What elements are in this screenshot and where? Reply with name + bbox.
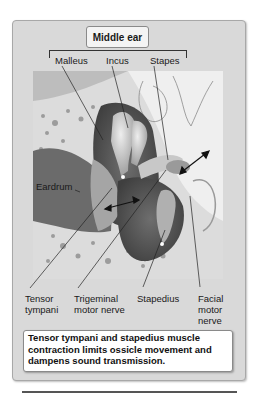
label-facial-3: nerve bbox=[198, 315, 222, 326]
middle-ear-illustration bbox=[33, 71, 223, 279]
label-trigeminal-1: Trigeminal bbox=[74, 293, 118, 304]
figure-caption: Tensor tympani and stapedius muscle cont… bbox=[23, 330, 233, 372]
label-incus: Incus bbox=[106, 55, 129, 66]
label-stapedius: Stapedius bbox=[137, 293, 179, 304]
label-tensor-tympani-1: Tensor bbox=[25, 293, 54, 304]
label-facial-2: motor bbox=[198, 304, 222, 315]
label-eardrum: Eardrum bbox=[36, 181, 72, 192]
label-malleus: Malleus bbox=[55, 55, 88, 66]
label-trigeminal-2: motor nerve bbox=[74, 304, 125, 315]
divider-line bbox=[22, 391, 237, 393]
figure-title: Middle ear bbox=[86, 26, 149, 48]
label-facial-1: Facial bbox=[198, 293, 223, 304]
label-tensor-tympani-2: tympani bbox=[25, 304, 58, 315]
label-stapes: Stapes bbox=[150, 55, 180, 66]
